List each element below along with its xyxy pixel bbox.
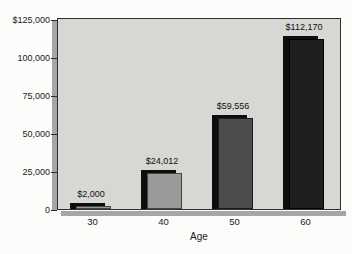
bar-age-40 <box>147 173 182 209</box>
x-axis-title: Age <box>57 231 341 242</box>
bar-chart: $125,000100,00075,00050,00025,0000 $2,00… <box>0 0 352 254</box>
bar-value-label: $112,170 <box>266 22 342 33</box>
y-tick-label: 25,000 <box>0 166 50 178</box>
bar-value-label: $24,012 <box>124 156 200 167</box>
y-tick-mark <box>51 210 57 211</box>
bar-age-50 <box>218 118 253 209</box>
bar-value-label: $59,556 <box>195 101 271 112</box>
x-tick-label: 60 <box>270 216 341 227</box>
y-tick-label: 75,000 <box>0 90 50 102</box>
y-tick-label: 50,000 <box>0 128 50 140</box>
x-tick-label: 30 <box>57 216 128 227</box>
x-tick-label: 40 <box>128 216 199 227</box>
y-tick-label: 100,000 <box>0 52 50 64</box>
x-tick-label: 50 <box>199 216 270 227</box>
y-tick-label: $125,000 <box>0 14 50 26</box>
bar-value-label: $2,000 <box>53 189 129 200</box>
bar-age-60 <box>289 39 324 209</box>
plot-area: $2,000$24,012$59,556$112,170 <box>57 18 341 210</box>
bar-age-30 <box>76 206 111 209</box>
y-tick-label: 0 <box>0 204 50 216</box>
